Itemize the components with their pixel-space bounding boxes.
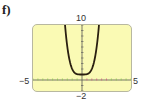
plot-area xyxy=(33,25,131,91)
y-min-label: −2 xyxy=(76,91,86,101)
graph-window xyxy=(32,24,132,92)
x-max-label: 5 xyxy=(133,76,138,86)
x-min-label: −5 xyxy=(19,76,29,86)
y-max-label: 10 xyxy=(76,13,86,23)
panel-label: f) xyxy=(2,2,11,18)
